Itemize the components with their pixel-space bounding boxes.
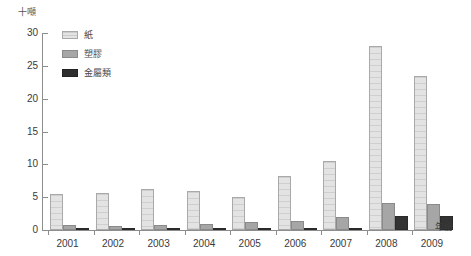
bar-metal-2005 <box>258 228 271 230</box>
bar-metal-2007 <box>349 228 362 230</box>
legend-label-paper: 紙 <box>84 30 93 40</box>
y-axis-unit-label: 十噸 <box>18 7 36 18</box>
bar-metal-2003 <box>167 228 180 230</box>
bar-paper-2004 <box>187 191 200 230</box>
bar-group-2005 <box>232 33 271 230</box>
y-tick-label: 15 <box>27 126 43 137</box>
bar-group-2006 <box>278 33 317 230</box>
bar-plastic-2007 <box>336 217 349 230</box>
y-tick-label: 10 <box>27 158 43 169</box>
recycling-bar-chart: 十噸 051015202530 200120022003200420052006… <box>0 0 471 256</box>
bar-paper-2008 <box>369 46 382 230</box>
bar-group-2008 <box>369 33 408 230</box>
bar-paper-2009 <box>414 76 427 230</box>
x-tick-2009 <box>412 231 413 235</box>
x-tick-2005 <box>230 231 231 235</box>
y-tick-label: 30 <box>27 27 43 38</box>
bar-paper-2007 <box>323 161 336 230</box>
legend-swatch-paper-icon <box>62 31 78 39</box>
bar-plastic-2008 <box>382 203 395 230</box>
bar-paper-2003 <box>141 189 154 230</box>
x-tick-2006 <box>276 231 277 235</box>
bar-paper-2005 <box>232 197 245 230</box>
bar-plastic-2001 <box>63 225 76 230</box>
x-tick-2003 <box>139 231 140 235</box>
bar-group-2009 <box>414 33 453 230</box>
legend-swatch-plastic-icon <box>62 50 78 58</box>
x-axis-label-2009: 2009 <box>402 238 461 250</box>
bar-metal-2004 <box>213 228 226 230</box>
bar-plastic-2003 <box>154 225 167 230</box>
x-tick-2008 <box>367 231 368 235</box>
bar-plastic-2005 <box>245 222 258 230</box>
y-tick-label: 20 <box>27 93 43 104</box>
x-tick-2004 <box>185 231 186 235</box>
chart-legend: 紙塑膠金屬類 <box>62 28 152 85</box>
legend-item-paper[interactable]: 紙 <box>62 28 152 41</box>
bar-metal-2008 <box>395 216 408 230</box>
legend-swatch-metal-icon <box>62 69 78 77</box>
bar-group-2004 <box>187 33 226 230</box>
x-axis-line <box>42 230 452 231</box>
bar-paper-2001 <box>50 194 63 230</box>
bar-plastic-2002 <box>109 226 122 230</box>
legend-label-metal: 金屬類 <box>84 68 111 78</box>
bar-metal-2002 <box>122 228 135 230</box>
bar-group-2007 <box>323 33 362 230</box>
x-axis-title: 年份 <box>435 222 453 233</box>
bar-plastic-2004 <box>200 224 213 230</box>
legend-item-plastic[interactable]: 塑膠 <box>62 47 152 60</box>
x-tick-2007 <box>321 231 322 235</box>
bar-paper-2002 <box>96 193 109 230</box>
chart-title <box>96 0 246 7</box>
legend-item-metal[interactable]: 金屬類 <box>62 66 152 79</box>
legend-label-plastic: 塑膠 <box>84 49 102 59</box>
bar-metal-2006 <box>304 228 317 230</box>
bar-metal-2001 <box>76 228 89 230</box>
y-tick-label: 25 <box>27 60 43 71</box>
bar-plastic-2006 <box>291 221 304 230</box>
x-tick-2002 <box>94 231 95 235</box>
x-tick-2001 <box>48 231 49 235</box>
bar-paper-2006 <box>278 176 291 231</box>
